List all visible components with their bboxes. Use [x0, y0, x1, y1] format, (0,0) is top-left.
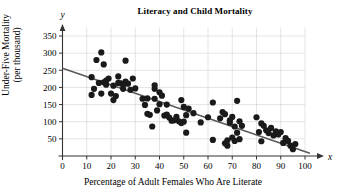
x-axis-label: Percentage of Adult Females Who Are Lite…: [28, 176, 318, 188]
data-points: [89, 49, 299, 152]
y-axis-label: Under-Five Mortality (per thousand): [1, 0, 23, 115]
svg-text:100: 100: [298, 161, 312, 171]
chart-title: Literacy and Child Mortality: [105, 6, 285, 17]
svg-text:200: 200: [43, 83, 57, 93]
svg-text:80: 80: [252, 161, 262, 171]
axis-tick-labels: 0102030405060708090100501001502002503003…: [43, 31, 312, 171]
y-axis-symbol: y: [59, 10, 65, 20]
svg-text:40: 40: [155, 161, 165, 171]
svg-text:20: 20: [107, 161, 117, 171]
svg-text:60: 60: [204, 161, 214, 171]
svg-text:50: 50: [179, 161, 189, 171]
svg-text:30: 30: [131, 161, 141, 171]
svg-text:300: 300: [43, 48, 57, 58]
x-axis-symbol: x: [327, 152, 333, 162]
svg-text:250: 250: [43, 66, 57, 76]
svg-text:150: 150: [43, 100, 57, 110]
svg-text:0: 0: [60, 161, 65, 171]
scatter-plot-figure: 0102030405060708090100501001502002503003…: [0, 0, 344, 195]
y-axis-label-line1: Under-Five Mortality: [1, 0, 12, 115]
svg-text:90: 90: [276, 161, 286, 171]
chart-canvas: 0102030405060708090100501001502002503003…: [0, 0, 344, 195]
svg-text:100: 100: [43, 117, 57, 127]
svg-text:10: 10: [82, 161, 92, 171]
y-axis-label-line2: (per thousand): [12, 0, 23, 115]
svg-text:350: 350: [43, 31, 57, 41]
svg-text:50: 50: [48, 134, 58, 144]
svg-text:70: 70: [228, 161, 238, 171]
